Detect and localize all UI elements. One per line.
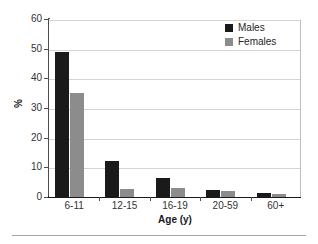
legend-label: Males <box>238 22 265 33</box>
y-axis-tick-label: 0 <box>2 191 42 202</box>
bar-group <box>99 20 149 197</box>
y-axis-tick-label: 60 <box>2 13 42 24</box>
y-axis-tick-label: 50 <box>2 43 42 54</box>
y-axis-tick-label: 10 <box>2 161 42 172</box>
legend: MalesFemales <box>225 21 276 49</box>
y-axis-tick-mark <box>44 49 48 50</box>
y-axis-tick-mark <box>44 78 48 79</box>
x-axis-title: Age (y) <box>49 214 301 225</box>
x-axis-tick-mark <box>200 197 201 201</box>
bar-females-16-19 <box>171 188 185 197</box>
x-axis-tick-label: 60+ <box>246 200 306 211</box>
legend-entry-males: Males <box>225 21 276 34</box>
y-axis-tick-label: 20 <box>2 132 42 143</box>
y-axis-tick-mark <box>44 19 48 20</box>
legend-swatch-icon <box>225 38 233 46</box>
legend-label: Females <box>238 36 276 47</box>
bar-females-6-11 <box>70 93 84 197</box>
legend-swatch-icon <box>225 24 233 32</box>
bar-females-12-15 <box>120 189 134 197</box>
bar-group <box>150 20 200 197</box>
bar-males-16-19 <box>156 178 170 197</box>
bar-males-20-59 <box>206 190 220 197</box>
bar-females-60+ <box>272 194 286 197</box>
y-axis-tick-label: 40 <box>2 72 42 83</box>
bar-females-20-59 <box>221 191 235 197</box>
y-axis-tick-mark <box>44 138 48 139</box>
y-axis-tick-mark <box>44 108 48 109</box>
legend-entry-females: Females <box>225 35 276 48</box>
bar-males-12-15 <box>105 161 119 197</box>
x-axis-tick-mark <box>99 197 100 201</box>
bar-males-6-11 <box>55 52 69 197</box>
y-axis-tick-label: 30 <box>2 102 42 113</box>
x-axis-tick-mark <box>150 197 151 201</box>
y-axis-tick-mark <box>44 167 48 168</box>
bar-chart-figure: % 0102030405060 6-1112-1516-1920-5960+ A… <box>0 0 318 244</box>
x-axis-tick-mark <box>251 197 252 201</box>
footer-rule <box>12 235 306 236</box>
bar-group <box>49 20 99 197</box>
bar-males-60+ <box>257 193 271 197</box>
y-axis-tick-mark <box>44 197 48 198</box>
